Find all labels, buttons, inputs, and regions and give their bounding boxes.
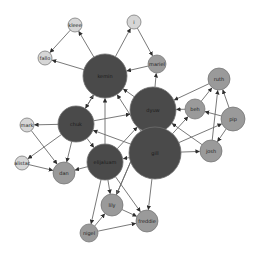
node-label: alistar (14, 160, 30, 166)
edge-pip-to-josh (218, 129, 227, 142)
node-freddie[interactable]: freddie (136, 210, 158, 232)
edge-elijaluam-to-lily (108, 180, 110, 194)
edge-lily-to-freddie (122, 210, 137, 217)
edge-kemin-to-chuk (86, 95, 94, 108)
network-graph: kemindyuwchukelijaluamgillkleeefalloimar… (0, 0, 261, 254)
node-elijaluam[interactable]: elijaluam (87, 144, 123, 180)
node-nigel[interactable]: nigel (80, 224, 98, 242)
edge-mark-to-dan (31, 131, 57, 164)
edge-kemin-to-fallo (52, 60, 84, 70)
node-label: chuk (70, 121, 82, 127)
edge-chuk-to-alistar (28, 135, 61, 159)
node-label: pip (229, 116, 237, 123)
edge-dyuw-to-mariel (155, 73, 156, 87)
edge-nigel-to-lily (95, 214, 105, 226)
node-label: kemin (97, 73, 112, 79)
node-chuk[interactable]: chuk (58, 106, 94, 142)
node-label: lily (108, 202, 115, 209)
node-label: beh (190, 106, 199, 112)
edge-alistar-to-dan (29, 165, 53, 171)
edge-chuk-to-dyuw (94, 114, 130, 121)
node-i[interactable]: i (127, 15, 141, 29)
node-label: dyuw (146, 107, 159, 114)
node-dyuw[interactable]: dyuw (130, 87, 176, 133)
node-fallo[interactable]: fallo (38, 51, 52, 65)
node-gill[interactable]: gill (129, 127, 181, 179)
node-mariel[interactable]: mariel (148, 55, 166, 73)
node-label: i (133, 19, 134, 25)
node-label: josh (205, 148, 216, 155)
edge-kemin-to-kleee (79, 31, 94, 57)
edge-kemin-to-i (115, 29, 130, 57)
edge-i-to-mariel (137, 28, 152, 56)
node-label: kleee (68, 22, 82, 28)
node-label: ruth (214, 76, 224, 82)
node-beh[interactable]: beh (185, 99, 205, 119)
node-label: mariel (149, 61, 165, 67)
node-label: mark (21, 122, 34, 128)
edge-layer (28, 28, 229, 231)
node-kemin[interactable]: kemin (83, 54, 127, 98)
node-josh[interactable]: josh (200, 140, 222, 162)
node-pip[interactable]: pip (221, 107, 245, 131)
edge-mariel-to-kemin (127, 66, 148, 71)
edge-elijaluam-to-nigel (91, 180, 101, 224)
node-kleee[interactable]: kleee (68, 18, 82, 32)
edge-pip-to-beh (205, 112, 221, 116)
edge-chuk-to-elijaluam (87, 138, 94, 147)
node-ruth[interactable]: ruth (208, 68, 230, 90)
node-label: dan (59, 170, 68, 176)
node-label: fallo (40, 55, 51, 61)
edge-dyuw-to-kemin (123, 89, 134, 97)
edge-elijaluam-to-dan (75, 167, 88, 170)
edge-beh-to-ruth (201, 88, 212, 101)
node-label: freddie (138, 218, 156, 224)
node-dan[interactable]: dan (53, 162, 75, 184)
node-label: gill (151, 150, 158, 157)
node-mark[interactable]: mark (20, 118, 34, 132)
edge-pip-to-ruth (223, 90, 229, 108)
edge-chuk-to-dan (67, 141, 72, 161)
node-label: nigel (83, 230, 95, 237)
edge-kleee-to-fallo (50, 30, 70, 52)
node-label: elijaluam (94, 159, 117, 166)
edge-gill-to-elijaluam (123, 158, 129, 159)
edge-gill-to-freddie (148, 179, 152, 210)
edge-josh-to-ruth (212, 90, 218, 140)
edge-gill-to-josh (181, 151, 200, 152)
edge-gill-to-chuk (93, 130, 130, 144)
node-lily[interactable]: lily (101, 194, 123, 216)
edge-nigel-to-freddie (98, 223, 136, 231)
